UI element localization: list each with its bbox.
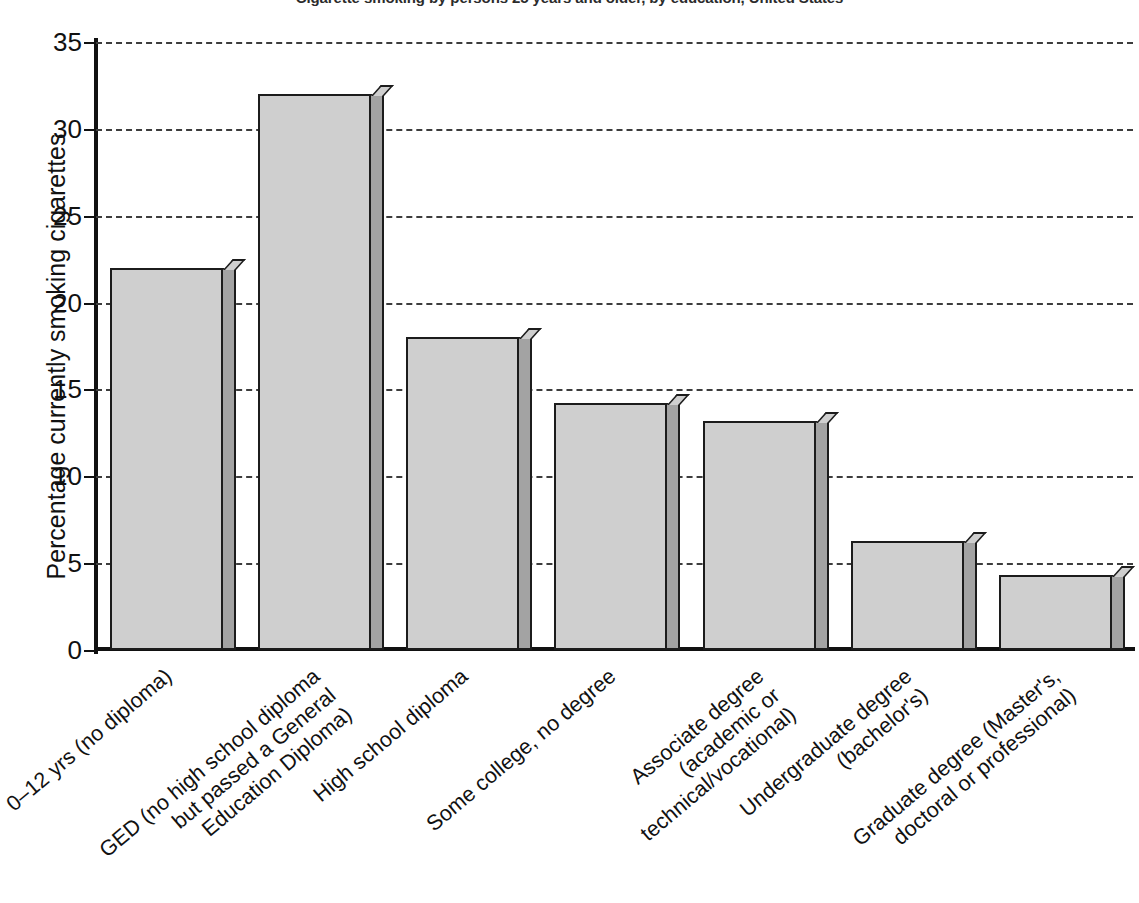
bar-top [1112,566,1135,577]
bar-top [223,259,246,270]
bar-top [371,85,394,96]
bar-side [1112,575,1125,650]
y-axis-tick-label: 5 [22,548,82,579]
bar-face [110,268,223,650]
y-axis-tick [84,476,96,478]
y-axis-tick-label: 10 [22,461,82,492]
bar-side [371,94,384,650]
bar[interactable] [554,403,667,650]
plot-area [96,42,1133,650]
bar[interactable] [851,541,964,650]
y-axis-tick-label: 15 [22,374,82,405]
x-axis-tick-labels: 0–12 yrs (no diploma)GED (no high school… [0,650,1139,903]
bar-face [999,575,1112,650]
bar-side [223,268,236,650]
gridline [96,216,1133,218]
bar[interactable] [110,268,223,650]
bar-face [554,403,667,650]
bar-face [703,421,816,650]
bar[interactable] [999,575,1112,650]
gridline [96,303,1133,305]
chart-title: Cigarette smoking by persons 25 years an… [0,0,1139,6]
y-axis-tick [84,389,96,391]
y-axis-tick [84,303,96,305]
bar-side [816,421,829,650]
bar[interactable] [406,337,519,650]
y-axis-tick-label: 20 [22,287,82,318]
y-axis-tick-label: 35 [22,27,82,58]
gridline [96,389,1133,391]
y-axis-tick-label: 30 [22,113,82,144]
y-axis-tick [84,216,96,218]
gridline [96,42,1133,44]
bar[interactable] [258,94,371,650]
bar-top [964,532,987,543]
bar-top [519,328,542,339]
bar-face [851,541,964,650]
y-axis-tick [84,42,96,44]
bar-side [667,403,680,650]
bar-top [816,412,839,423]
bar-top [667,394,690,405]
bar[interactable] [703,421,816,650]
y-axis-tick [84,563,96,565]
bar-side [964,541,977,650]
y-axis-tick-label: 25 [22,200,82,231]
y-axis-tick [84,129,96,131]
gridline [96,129,1133,131]
chart-figure: Cigarette smoking by persons 25 years an… [0,0,1139,903]
bar-face [258,94,371,650]
bar-face [406,337,519,650]
bar-side [519,337,532,650]
